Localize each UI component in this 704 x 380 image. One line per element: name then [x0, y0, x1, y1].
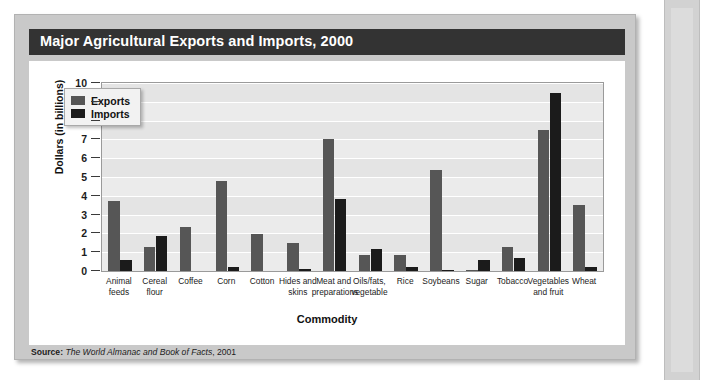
- gridline: [102, 139, 603, 140]
- gridline: [102, 158, 603, 159]
- y-axis-tick-mark: [91, 214, 100, 215]
- plot-band: [102, 215, 603, 234]
- source-label: Source:: [31, 347, 63, 357]
- plot-band: [102, 177, 603, 196]
- gridline: [102, 83, 603, 84]
- y-axis-tick-mark: [91, 251, 100, 252]
- bar-exports: [144, 247, 156, 271]
- y-axis-tick-mark: [91, 232, 100, 233]
- bar-imports: [442, 270, 454, 272]
- gridline: [102, 177, 603, 178]
- bar-exports: [502, 247, 514, 271]
- bar-imports: [406, 267, 418, 271]
- y-axis-tick-mark: [91, 120, 100, 121]
- legend-swatch-exports-icon: [71, 96, 85, 105]
- source-note: Source: The World Almanac and Book of Fa…: [31, 347, 236, 357]
- bar-exports: [323, 139, 335, 271]
- chart-card: Dollars (in billions) 012345678910 Expor…: [29, 61, 625, 345]
- x-axis-category-line: Wheat: [562, 276, 606, 287]
- gridline: [102, 252, 603, 253]
- y-axis-tick-label: 1: [81, 246, 87, 258]
- bar-imports: [514, 258, 526, 271]
- figure-panel-inner: Major Agricultural Exports and Imports, …: [19, 19, 631, 355]
- gridline: [102, 102, 603, 103]
- plot-band: [102, 102, 603, 121]
- gridline: [102, 215, 603, 216]
- y-axis-tick-label: 7: [81, 133, 87, 145]
- bar-imports: [228, 267, 240, 271]
- x-axis-category-line: flour: [133, 287, 177, 298]
- x-axis-category-label: Wheat: [562, 276, 606, 287]
- page-edge-strip-inner: [671, 8, 693, 372]
- bar-exports: [108, 201, 120, 272]
- bar-exports: [251, 234, 263, 271]
- x-axis-tick-labels: AnimalfeedsCerealflourCoffeeCornCottonHi…: [101, 276, 604, 310]
- bar-imports: [156, 236, 168, 271]
- bar-exports: [573, 205, 585, 271]
- x-axis-category-line: and fruit: [526, 287, 570, 298]
- plot-band: [102, 139, 603, 158]
- bar-exports: [359, 255, 371, 271]
- bar-imports: [585, 267, 597, 271]
- bar-exports: [287, 243, 299, 271]
- legend-entry-imports: Imports: [71, 107, 130, 120]
- y-axis-tick-label: 3: [81, 209, 87, 221]
- bar-exports: [538, 130, 550, 271]
- y-axis-tick-mark: [91, 195, 100, 196]
- bar-imports: [299, 269, 311, 271]
- bar-imports: [371, 249, 383, 271]
- screenshot-root: Major Agricultural Exports and Imports, …: [0, 0, 704, 380]
- y-axis-tick-mark: [91, 270, 100, 271]
- gridline: [102, 196, 603, 197]
- y-axis-tick-label: 5: [81, 171, 87, 183]
- bar-imports: [478, 260, 490, 271]
- bar-exports: [216, 181, 228, 271]
- legend-entry-exports: Exports: [71, 94, 130, 107]
- bar-exports: [180, 227, 192, 271]
- chart-legend: Exports Imports: [64, 88, 141, 126]
- source-year: , 2001: [212, 347, 236, 357]
- bar-imports: [120, 260, 132, 271]
- page-edge-strip: [664, 0, 700, 380]
- y-axis-tick-label: 4: [81, 190, 87, 202]
- figure-panel: Major Agricultural Exports and Imports, …: [14, 14, 636, 360]
- bar-imports: [335, 199, 347, 271]
- bar-exports: [430, 170, 442, 271]
- y-axis-tick-label: 6: [81, 152, 87, 164]
- gridline: [102, 121, 603, 122]
- y-axis-tick-mark: [91, 138, 100, 139]
- y-axis-tick-mark: [91, 101, 100, 102]
- y-axis-tick-mark: [91, 176, 100, 177]
- source-work-title: The World Almanac and Book of Facts: [65, 347, 212, 357]
- x-axis-category-line: vegetable: [348, 287, 392, 298]
- bar-exports: [394, 255, 406, 271]
- gridline: [102, 233, 603, 234]
- legend-swatch-imports-icon: [71, 109, 85, 118]
- y-axis-tick-mark: [91, 157, 100, 158]
- y-axis-tick-mark: [91, 82, 100, 83]
- bar-imports: [550, 93, 562, 271]
- y-axis-tick-label: 0: [81, 265, 87, 277]
- bar-exports: [466, 270, 478, 272]
- page-title: Major Agricultural Exports and Imports, …: [40, 33, 353, 49]
- x-axis-title: Commodity: [29, 313, 625, 325]
- legend-label-imports: Imports: [91, 108, 130, 120]
- y-axis-tick-label: 2: [81, 227, 87, 239]
- chart-title-bar: Major Agricultural Exports and Imports, …: [29, 29, 625, 55]
- plot-band: [102, 252, 603, 271]
- plot-area: [101, 82, 604, 272]
